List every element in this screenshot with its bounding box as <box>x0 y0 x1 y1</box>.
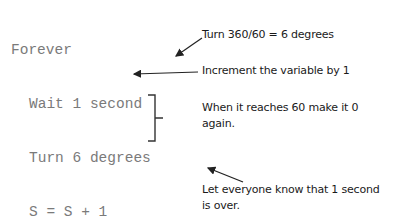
arrow-turn-icon <box>176 38 202 56</box>
arrow-increment-icon <box>134 72 198 74</box>
brace-icon <box>148 95 163 141</box>
arrows-layer <box>0 0 396 222</box>
arrow-broadcast-icon <box>208 168 243 182</box>
